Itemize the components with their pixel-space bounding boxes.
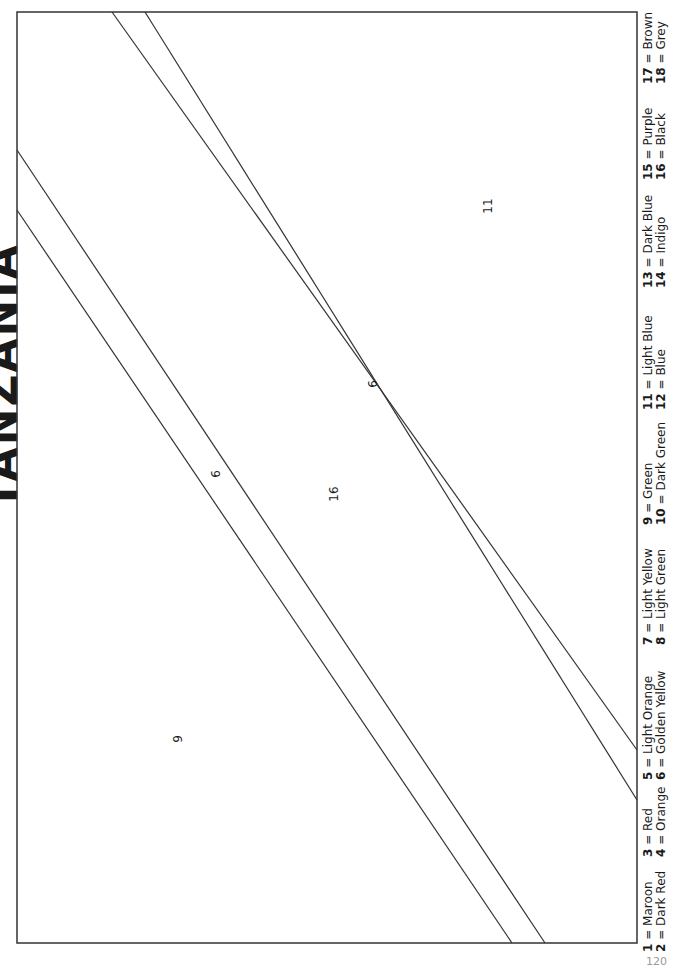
legend-group-9-10: 9 = Green 10 = Dark Green: [642, 422, 668, 525]
band-line-upper-2: [145, 12, 637, 800]
legend-num: 12: [654, 393, 668, 410]
legend-num: 3: [641, 849, 655, 857]
legend-color-name: Light Yellow: [641, 548, 655, 619]
legend-group-7-8: 7 = Light Yellow 8 = Light Green: [642, 548, 668, 645]
legend-color-name: Green: [641, 463, 655, 499]
region-label-green: 9: [171, 735, 185, 743]
legend-num: 5: [641, 772, 655, 780]
legend-num: 7: [641, 637, 655, 645]
legend-color-name: Maroon: [641, 881, 655, 926]
color-legend: 1 = Maroon 2 = Dark Red 3 = Red 4 = Oran…: [640, 0, 673, 976]
legend-color-name: Light Green: [654, 549, 668, 619]
legend-group-1-2: 1 = Maroon 2 = Dark Red: [642, 871, 668, 952]
legend-num: 15: [641, 163, 655, 180]
legend-color-name: Dark Green: [654, 422, 668, 491]
band-line-lower-1: [17, 150, 545, 943]
legend-color-name: Light Orange: [641, 676, 655, 754]
band-line-lower-2: [17, 210, 512, 943]
region-label-golden-yellow-lower: 6: [209, 470, 223, 478]
legend-num: 8: [654, 637, 668, 645]
legend-color-name: Purple: [641, 108, 655, 146]
legend-num: 16: [654, 163, 668, 180]
legend-group-11-12: 11 = Light Blue 12 = Blue: [642, 315, 668, 410]
legend-num: 1: [641, 944, 655, 952]
region-label-black: 16: [327, 486, 341, 501]
legend-color-name: Black: [654, 113, 668, 145]
legend-num: 6: [654, 772, 668, 780]
legend-color-name: Golden Yellow: [654, 671, 668, 754]
legend-color-name: Light Blue: [641, 315, 655, 375]
page-number: 120: [646, 955, 667, 968]
flag-frame: [17, 12, 637, 943]
legend-num: 14: [654, 271, 668, 288]
legend-color-name: Red: [641, 808, 655, 831]
legend-group-17-18: 17 = Brown 18 = Grey: [642, 12, 668, 84]
legend-group-13-14: 13 = Dark Blue 14 = Indigo: [642, 195, 668, 288]
legend-num: 9: [641, 517, 655, 525]
region-label-light-blue: 11: [481, 198, 495, 213]
legend-color-name: Indigo: [654, 217, 668, 254]
legend-color-name: Orange: [654, 787, 668, 831]
legend-num: 11: [641, 393, 655, 410]
legend-num: 17: [641, 67, 655, 84]
legend-color-name: Grey: [654, 21, 668, 49]
legend-num: 18: [654, 67, 668, 84]
legend-group-15-16: 15 = Purple 16 = Black: [642, 108, 668, 180]
legend-color-name: Dark Red: [654, 871, 668, 926]
legend-color-name: Dark Blue: [641, 195, 655, 254]
legend-num: 2: [654, 944, 668, 952]
legend-group-5-6: 5 = Light Orange 6 = Golden Yellow: [642, 671, 668, 780]
region-label-golden-yellow-upper: 6: [366, 380, 380, 388]
legend-num: 13: [641, 271, 655, 288]
legend-color-name: Brown: [641, 12, 655, 50]
legend-color-name: Blue: [654, 349, 668, 376]
legend-num: 4: [654, 849, 668, 857]
legend-group-3-4: 3 = Red 4 = Orange: [642, 787, 668, 857]
legend-num: 10: [654, 508, 668, 525]
